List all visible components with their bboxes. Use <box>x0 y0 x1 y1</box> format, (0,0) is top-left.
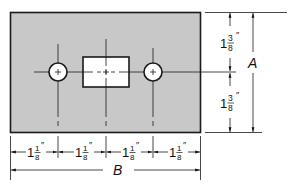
dim-label-horizontal-1: 1 1 8 ″ <box>27 140 45 162</box>
svg-text:8: 8 <box>35 153 40 162</box>
dim-label-vertical-2: 1 3 8 ″ <box>220 90 240 113</box>
svg-text:″: ″ <box>136 140 140 150</box>
svg-text:8: 8 <box>228 103 233 113</box>
svg-text:1: 1 <box>130 144 135 153</box>
svg-text:1: 1 <box>35 144 40 153</box>
svg-text:″: ″ <box>41 140 45 150</box>
svg-text:1: 1 <box>177 144 182 153</box>
dim-label-horizontal-4: 1 1 8 ″ <box>169 140 187 162</box>
svg-text:8: 8 <box>228 43 233 53</box>
svg-text:1: 1 <box>122 145 129 160</box>
svg-text:1: 1 <box>220 36 227 51</box>
dim-label-B: B <box>113 162 122 178</box>
svg-text:3: 3 <box>228 33 233 43</box>
svg-text:8: 8 <box>177 153 182 162</box>
svg-text:8: 8 <box>83 153 88 162</box>
svg-text:1: 1 <box>169 145 176 160</box>
plate-drawing: 1 3 8 ″ 1 3 8 ″ A 1 1 8 <box>0 0 298 192</box>
svg-text:1: 1 <box>75 145 82 160</box>
svg-text:1: 1 <box>83 144 88 153</box>
svg-text:1: 1 <box>220 96 227 111</box>
svg-text:1: 1 <box>27 145 34 160</box>
svg-text:″: ″ <box>183 140 187 150</box>
svg-text:8: 8 <box>130 153 135 162</box>
dim-label-A: A <box>247 55 257 71</box>
svg-text:″: ″ <box>236 30 240 40</box>
right-extension-lines <box>205 13 287 133</box>
svg-text:3: 3 <box>228 93 233 103</box>
dim-label-horizontal-3: 1 1 8 ″ <box>122 140 140 162</box>
dim-label-vertical-1: 1 3 8 ″ <box>220 30 240 53</box>
svg-text:″: ″ <box>89 140 93 150</box>
svg-text:″: ″ <box>236 90 240 100</box>
vertical-dimension-lines <box>230 13 253 132</box>
dim-label-horizontal-2: 1 1 8 ″ <box>75 140 93 162</box>
